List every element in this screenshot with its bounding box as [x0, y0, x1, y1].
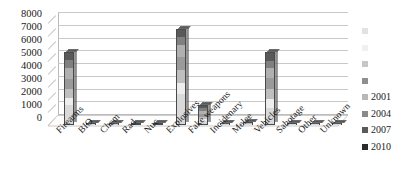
legend-swatch-icon [362, 45, 368, 51]
legend-swatch-icon [362, 94, 368, 100]
legend-swatch-icon [362, 78, 368, 84]
legend-item[interactable] [362, 76, 371, 86]
legend-item[interactable]: 2007 [362, 125, 391, 135]
legend-swatch-icon [362, 144, 368, 150]
bar-segment [177, 57, 185, 71]
bar-segment [266, 78, 274, 89]
bar-segment [266, 61, 274, 68]
bar-segment [266, 53, 274, 60]
y-tick-label: 4000 [21, 61, 42, 71]
y-tick-label: 3000 [21, 74, 42, 84]
bar-segment [177, 37, 185, 46]
legend-item[interactable] [362, 26, 371, 36]
legend-item[interactable] [362, 43, 371, 53]
legend-swatch-icon [362, 61, 368, 67]
legend-label: 2001 [371, 92, 391, 102]
y-tick-label: 5000 [21, 48, 42, 58]
bar-segment [65, 89, 73, 98]
legend-label: 2007 [371, 125, 391, 135]
legend-label: 2004 [371, 109, 391, 119]
legend-swatch-icon [362, 127, 368, 133]
legend-swatch-icon [362, 28, 368, 34]
bar-segment [65, 68, 73, 79]
chart-screenshot: 8000 7000 6000 5000 4000 3000 2000 1000 … [0, 0, 420, 192]
y-tick-label: 8000 [21, 9, 42, 19]
legend-item[interactable]: 2004 [362, 109, 391, 119]
bar-segment [266, 89, 274, 99]
bar-segment [266, 68, 274, 78]
bar-segment [65, 79, 73, 89]
bar-segment [177, 70, 185, 82]
y-tick-label: 6000 [21, 35, 42, 45]
legend-label: 2010 [371, 142, 391, 152]
legend-swatch-icon [362, 111, 368, 117]
y-tick-label: 7000 [21, 22, 42, 32]
bar-segment [177, 83, 185, 94]
x-axis-labels: Firearms BIO Chem Rad Nuc Explosives Fak… [48, 124, 358, 192]
y-axis-labels: 8000 7000 6000 5000 4000 3000 2000 1000 … [0, 12, 44, 128]
y-tick-label: 1000 [21, 100, 42, 110]
bar-segment [65, 60, 73, 69]
legend-item[interactable]: 2001 [362, 92, 391, 102]
bar-segment [177, 45, 185, 56]
y-tick-label: 2000 [21, 87, 42, 97]
chart-legend: 2001200420072010 [362, 26, 420, 166]
legend-item[interactable] [362, 59, 371, 69]
bar-segment [65, 98, 73, 105]
y-tick-label: 0 [37, 113, 42, 123]
legend-item[interactable]: 2010 [362, 142, 391, 152]
